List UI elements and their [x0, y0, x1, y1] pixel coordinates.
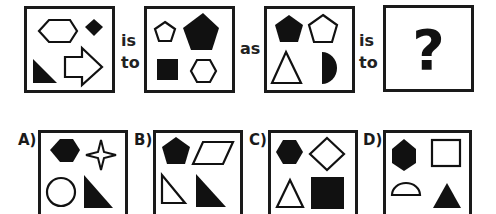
- word-is: is: [121, 32, 140, 50]
- pentagon-outline-icon: [155, 22, 175, 41]
- right-triangle-solid-icon: [33, 59, 57, 83]
- diamond-solid-icon: [85, 19, 103, 36]
- option-b[interactable]: [153, 130, 243, 214]
- panel-3: [264, 6, 355, 93]
- square-solid-icon: [157, 59, 178, 80]
- option-c-label: C): [249, 131, 267, 149]
- option-a-label: A): [18, 131, 36, 149]
- half-circle-outline-icon: [392, 183, 420, 195]
- option-a[interactable]: [38, 130, 128, 214]
- analogy-puzzle: is to as is to ? A): [0, 0, 496, 214]
- option-c-shapes: [271, 133, 355, 214]
- panel-4-question: ?: [383, 5, 474, 92]
- triangle-outline-icon: [277, 180, 303, 207]
- four-point-star-outline-icon: [86, 140, 116, 170]
- word-to: to: [359, 54, 378, 72]
- question-mark-icon: ?: [386, 22, 471, 78]
- diamond-outline-icon: [310, 138, 344, 170]
- is-to-label-1: is to: [121, 32, 140, 72]
- pentagon-solid-icon: [275, 15, 303, 42]
- half-circle-solid-icon: [322, 52, 337, 84]
- panel-1: [24, 6, 115, 93]
- as-label: as: [240, 40, 260, 58]
- right-triangle-outline-icon: [162, 175, 185, 203]
- hexagon-solid-icon: [392, 139, 416, 171]
- panel-1-shapes: [27, 9, 112, 90]
- panel-2-shapes: [147, 9, 232, 90]
- option-a-shapes: [41, 133, 125, 214]
- parallelogram-outline-icon: [193, 142, 233, 164]
- option-b-shapes: [156, 133, 240, 214]
- option-c[interactable]: [268, 130, 358, 214]
- option-d-shapes: [386, 133, 469, 214]
- option-b-label: B): [134, 131, 152, 149]
- hexagon-solid-icon: [50, 139, 80, 162]
- hexagon-solid-icon: [276, 140, 303, 164]
- pentagon-solid-icon: [183, 13, 219, 50]
- arrow-right-outline-icon: [65, 48, 102, 85]
- square-outline-icon: [432, 140, 460, 166]
- right-triangle-solid-icon: [196, 174, 226, 207]
- hexagon-outline-icon: [39, 20, 77, 42]
- triangle-outline-icon: [272, 52, 301, 83]
- pentagon-solid-icon: [162, 137, 190, 164]
- panel-2: [144, 6, 235, 93]
- panel-3-shapes: [267, 9, 352, 90]
- hexagon-outline-icon: [191, 60, 216, 82]
- option-d-label: D): [363, 131, 382, 149]
- option-d[interactable]: [383, 130, 472, 214]
- circle-outline-icon: [47, 178, 75, 206]
- is-to-label-2: is to: [359, 32, 378, 72]
- word-is: is: [359, 32, 378, 50]
- right-triangle-solid-icon: [84, 175, 113, 208]
- pentagon-outline-icon: [309, 15, 337, 42]
- triangle-solid-icon: [433, 183, 461, 208]
- word-to: to: [121, 54, 140, 72]
- square-solid-icon: [311, 177, 344, 209]
